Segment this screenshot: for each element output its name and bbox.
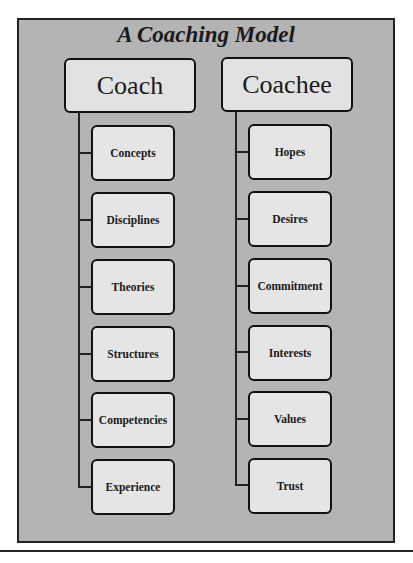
item-box-interests: Interests [248,325,332,381]
connector-branch [78,353,92,355]
item-box-competencies: Competencies [91,392,175,448]
diagram-title: A Coaching Model [17,22,395,48]
item-box-structures: Structures [91,326,175,382]
horizontal-rule [0,550,413,552]
item-box-values: Values [248,391,332,447]
connector-branch [78,152,92,154]
connector-trunk-coachee [235,112,237,485]
item-box-theories: Theories [91,259,175,315]
connector-branch [78,419,92,421]
header-box-coach: Coach [64,58,196,113]
item-box-concepts: Concepts [91,125,175,181]
connector-branch [78,286,92,288]
item-box-desires: Desires [248,191,332,247]
connector-trunk-coach [78,113,80,487]
connector-branch [235,151,249,153]
connector-branch [78,219,92,221]
connector-branch [235,351,249,353]
item-box-trust: Trust [248,458,332,514]
item-box-commitment: Commitment [248,258,332,314]
item-box-disciplines: Disciplines [91,192,175,248]
connector-branch [235,285,249,287]
item-box-hopes: Hopes [248,124,332,180]
connector-branch [235,484,249,486]
item-box-experience: Experience [91,459,175,515]
header-box-coachee: Coachee [221,57,353,112]
connector-branch [235,218,249,220]
connector-branch [235,418,249,420]
connector-branch [78,486,92,488]
